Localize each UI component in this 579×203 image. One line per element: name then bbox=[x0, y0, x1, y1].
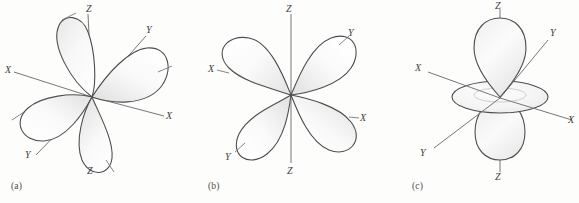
panel-c-axis-label-y-right: Y bbox=[550, 28, 556, 38]
panel-c: Z X Y X Y Z (c) bbox=[390, 0, 579, 203]
panel-c-axis-label-y-left: Y bbox=[420, 148, 426, 158]
panel-c-caption: (c) bbox=[412, 181, 423, 191]
panel-a-lobes bbox=[20, 17, 168, 172]
panel-a: Z X Y X Y Z (a) bbox=[0, 0, 195, 203]
panel-b-axis-label-z-top: Z bbox=[286, 4, 292, 14]
panel-b-axis-label-x-left: X bbox=[208, 64, 214, 74]
panel-b: Z X Y X Y Z (b) bbox=[195, 0, 390, 203]
panel-a-caption: (a) bbox=[11, 181, 22, 191]
panel-c-axis-label-z-top: Z bbox=[495, 1, 501, 11]
panel-a-axis-label-y-left: Y bbox=[25, 150, 31, 160]
panel-b-axis-label-x-right: X bbox=[360, 113, 366, 123]
panel-b-axis-label-y-right: Y bbox=[348, 28, 354, 38]
lobe-lower-right bbox=[291, 95, 356, 152]
lobe-lower-left bbox=[236, 95, 291, 160]
panel-a-axis-label-y-right: Y bbox=[146, 25, 152, 35]
lobe-upper-right bbox=[92, 48, 168, 102]
orbital-figure: Z X Y X Y Z (a) bbox=[0, 0, 579, 203]
lobe-upper-left bbox=[222, 37, 291, 95]
panel-b-axis-label-z-bottom: Z bbox=[287, 166, 293, 176]
panel-a-axis-label-x-right: X bbox=[166, 111, 172, 121]
panel-a-drawing bbox=[0, 0, 195, 203]
panel-b-lobes bbox=[222, 36, 356, 160]
panel-b-caption: (b) bbox=[208, 181, 220, 191]
panel-a-axis-label-z-bottom: Z bbox=[87, 166, 93, 176]
panel-b-axis-label-y-left: Y bbox=[225, 152, 231, 162]
panel-c-axis-label-x-left: X bbox=[415, 63, 421, 73]
panel-a-axis-label-x-left: X bbox=[5, 65, 11, 75]
lobe-upper-right bbox=[291, 36, 356, 95]
panel-c-axis-label-z-bottom: Z bbox=[495, 172, 501, 182]
panel-c-axis-label-x-right: X bbox=[568, 115, 574, 125]
panel-a-axis-label-z-top: Z bbox=[86, 4, 92, 14]
